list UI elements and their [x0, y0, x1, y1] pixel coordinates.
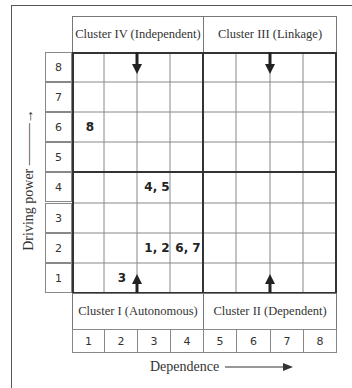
x-tick-1: 1 — [72, 329, 105, 353]
y-axis-label: Driving power ———→ — [21, 109, 37, 251]
y-tick-3: 3 — [45, 203, 72, 233]
y-tick-8: 8 — [45, 52, 72, 82]
x-tick-2: 2 — [104, 329, 138, 353]
frame-left-border — [11, 5, 12, 388]
cluster-iv-header: Cluster IV (Independent) — [72, 16, 204, 53]
x-tick-5: 5 — [203, 329, 237, 353]
x-axis-arrow-icon — [225, 361, 295, 373]
x-axis-title: Dependence — [150, 356, 295, 378]
y-tick-6: 6 — [45, 112, 72, 142]
x-tick-7: 7 — [270, 329, 304, 353]
x-tick-3: 3 — [137, 329, 171, 353]
arrow-down-cluster-iii-icon — [265, 52, 275, 74]
frame-top-border — [11, 5, 352, 6]
x-tick-6: 6 — [236, 329, 271, 353]
x-tick-8: 8 — [303, 329, 337, 353]
cluster-iv-label: Cluster IV (Independent) — [75, 27, 200, 42]
x-tick-4: 4 — [170, 329, 204, 353]
cluster-iii-header: Cluster III (Linkage) — [203, 16, 337, 53]
x-axis-label: Dependence — [150, 359, 219, 375]
matrix-grid: 8 4, 5 1, 2 6, 7 3 — [72, 52, 337, 294]
cluster-i-label: Cluster I (Autonomous) — [78, 304, 197, 319]
cluster-i-footer: Cluster I (Autonomous) — [72, 293, 204, 330]
cluster-ii-label: Cluster II (Dependent) — [213, 304, 326, 319]
y-tick-2: 2 — [45, 233, 72, 263]
arrow-up-cluster-i-icon — [132, 274, 142, 294]
y-tick-5: 5 — [45, 142, 72, 172]
cluster-ii-footer: Cluster II (Dependent) — [203, 293, 337, 330]
y-axis-title: Driving power ———→ — [14, 100, 44, 260]
y-tick-1: 1 — [45, 263, 72, 293]
y-tick-7: 7 — [45, 82, 72, 112]
arrow-up-cluster-ii-icon — [265, 274, 275, 294]
arrow-down-cluster-iv-icon — [132, 52, 142, 74]
quadrant-arrows — [72, 52, 337, 294]
cluster-iii-label: Cluster III (Linkage) — [218, 27, 322, 42]
y-tick-4: 4 — [45, 172, 72, 202]
